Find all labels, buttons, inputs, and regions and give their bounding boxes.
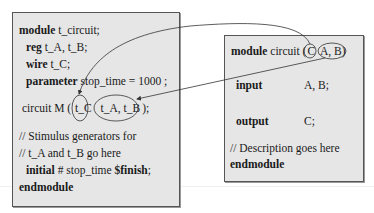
code-line-parameter: parameter stop_time = 1000 ; [26,75,167,88]
keyword-endmodule-right: endmodule [230,158,284,171]
instance-suffix: ); [142,102,149,114]
keyword-reg: reg [26,41,42,53]
wire-decl: t_C; [48,58,71,70]
initial-delay: # stop_time [55,164,115,176]
reg-decl: t_A, t_B; [42,41,88,53]
parameter-decl: stop_time = 1000 ; [78,75,168,87]
keyword-finish: $finish [115,164,148,176]
instance-port-t-c: t_C [75,102,92,114]
keyword-module: module [19,24,55,36]
header-close: ) [342,45,346,57]
keyword-parameter: parameter [26,75,78,87]
port-ab: A, B [320,45,342,57]
initial-semicolon: ; [148,164,151,176]
keyword-input: input [236,79,262,92]
output-ports: C; [304,115,315,128]
code-line-initial: initial # stop_time $finish; [26,164,151,177]
code-line-instance: circuit M ( t_C t_A, t_B); [22,102,149,115]
circuit-header: module circuit (CA, B) [231,45,346,58]
code-comment-2: // t_A and t_B go here [19,147,121,160]
keyword-output: output [236,115,269,128]
instance-port-t-ab: t_A, t_B [101,102,141,114]
code-line-module: module t_circuit; [19,24,100,37]
instance-prefix: circuit M ( [22,102,71,114]
code-comment-1: // Stimulus generators for [19,130,136,143]
module-name: t_circuit; [55,24,99,36]
keyword-module: module [231,45,267,57]
code-line-wire: wire t_C; [26,58,70,71]
circuit-name: circuit ( [267,45,306,57]
code-line-reg: reg t_A, t_B; [26,41,87,54]
keyword-endmodule: endmodule [19,181,73,194]
input-ports: A, B; [304,79,329,92]
description-comment: // Description goes here [230,142,340,155]
port-c: C [307,45,315,57]
keyword-initial: initial [26,164,55,176]
keyword-wire: wire [26,58,48,70]
